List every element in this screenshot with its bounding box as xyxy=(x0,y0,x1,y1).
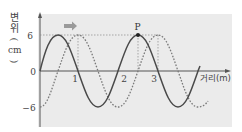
x-axis-label: 거리(m) xyxy=(200,73,231,83)
x-tick-label: 3 xyxy=(151,74,157,84)
y-tick-label: −6 xyxy=(22,103,36,113)
point-p xyxy=(136,33,140,37)
point-p-label: P xyxy=(135,22,141,32)
x-tick-label: 2 xyxy=(121,74,127,84)
y-tick-label: 0 xyxy=(30,67,36,77)
y-tick-label: 6 xyxy=(27,31,33,41)
x-tick-label: 1 xyxy=(72,74,78,84)
wave-diagram: P 6 0 −6 1 2 3 거리(m) xyxy=(0,0,242,132)
